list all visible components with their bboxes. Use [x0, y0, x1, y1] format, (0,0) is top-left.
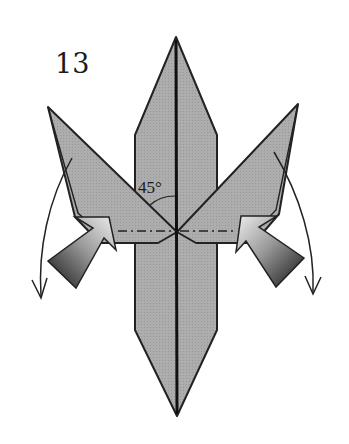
step-number: 13: [55, 50, 89, 77]
origami-diagram: 13: [0, 0, 349, 444]
push-arrow-right: [236, 216, 304, 287]
center-crease: [176, 40, 177, 414]
angle-label: 45°: [138, 178, 162, 197]
diagram-canvas: 45°: [0, 0, 349, 444]
push-arrow-left: [48, 217, 116, 288]
